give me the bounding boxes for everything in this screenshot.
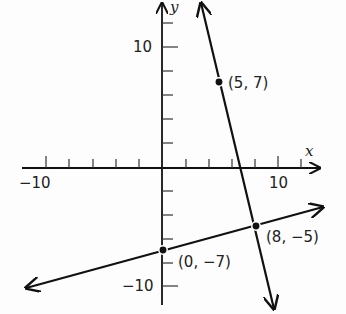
y-tick-label-neg10: −10 <box>122 277 154 295</box>
point-label-0-neg7: (0, −7) <box>178 253 231 271</box>
y-tick-label-10: 10 <box>133 38 152 56</box>
y-axis-label: y <box>169 0 179 16</box>
line-shallow <box>26 207 323 288</box>
point-label-5-7: (5, 7) <box>228 74 268 92</box>
point-0-neg7 <box>159 246 167 254</box>
point-label-8-neg5: (8, −5) <box>266 228 319 246</box>
coordinate-plane-diagram: y x −10 10 10 −10 (5, 7) (8, −5) (0, −7) <box>0 0 346 314</box>
plot-svg: y x −10 10 10 −10 (5, 7) (8, −5) (0, −7) <box>0 0 346 314</box>
x-ticks <box>46 156 301 168</box>
x-axis-label: x <box>305 142 314 160</box>
point-5-7 <box>215 78 223 86</box>
point-8-neg5 <box>252 222 260 230</box>
x-tick-label-neg10: −10 <box>19 174 51 192</box>
x-tick-label-10: 10 <box>269 174 288 192</box>
